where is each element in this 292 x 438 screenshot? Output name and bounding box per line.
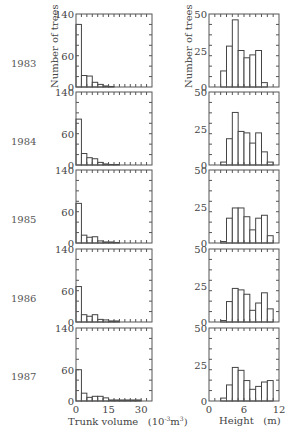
y-tick-label: 25 [194, 46, 207, 57]
histogram-bar [227, 139, 233, 165]
x-tick-label: 0 [73, 404, 79, 415]
histogram-bar [92, 82, 97, 87]
right-x-axis-unit: (m) [263, 415, 280, 426]
y-tick-label: 50 [194, 9, 207, 20]
y-tick-label: 140 [55, 244, 74, 255]
histogram-bar [92, 237, 97, 243]
histogram-bar [244, 133, 250, 165]
histogram-bar [267, 236, 273, 243]
histogram-bar [87, 237, 92, 243]
histogram-bar [250, 389, 256, 401]
y-tick-label: 60 [61, 207, 74, 218]
histogram-bar [250, 310, 256, 322]
y-tick-label: 50 [194, 87, 207, 98]
plot-frame [76, 92, 152, 165]
histogram-bar [256, 218, 262, 243]
histogram-bar [238, 131, 244, 165]
histogram-bar [87, 158, 92, 165]
histogram-bar [81, 315, 86, 322]
y-tick-label: 25 [194, 124, 207, 135]
histogram-bar [81, 235, 86, 243]
histogram-bar [227, 46, 233, 87]
y-tick-label: 60 [61, 129, 74, 140]
histogram-bar [76, 287, 81, 322]
plot-frame [76, 328, 152, 401]
y-tick-label: 50 [194, 323, 207, 334]
histogram-bar [262, 215, 268, 243]
histogram-bar [92, 159, 97, 165]
histogram-bar [87, 316, 92, 322]
histogram-bar [256, 386, 262, 401]
y-tick-label: 60 [61, 51, 74, 62]
histogram-bar [87, 76, 92, 87]
histogram-bar [87, 397, 92, 401]
histogram-bar [81, 76, 86, 87]
y-tick-label: 25 [194, 202, 207, 213]
histogram-bar [76, 370, 81, 401]
histogram-bar [232, 288, 238, 322]
y-tick-label: 140 [55, 9, 74, 20]
histogram-bar [267, 381, 273, 401]
histogram-bar [250, 55, 256, 87]
histogram-bar [250, 230, 256, 243]
left-x-axis-unit: (10-3m3) [148, 416, 188, 427]
histogram-bar [81, 393, 86, 401]
y-tick-label: 140 [55, 165, 74, 176]
left-x-axis-label: Trunk volume (10-3m3) [68, 415, 188, 427]
histogram-bar [92, 396, 97, 401]
histogram-bar [262, 293, 268, 322]
right-x-axis-label: Height (m) [219, 415, 281, 426]
histogram-bar [256, 51, 262, 88]
y-tick-label: 50 [194, 165, 207, 176]
histogram-bar [92, 315, 97, 322]
histogram-bar [232, 367, 238, 401]
histogram-bar [98, 396, 103, 401]
plot-frame [76, 170, 152, 243]
histogram-bar [221, 71, 227, 87]
histogram-bar [256, 133, 262, 165]
histogram-bar [256, 303, 262, 322]
histogram-bar [232, 112, 238, 165]
y-tick-label: 25 [194, 281, 207, 292]
histogram-bar [244, 381, 250, 401]
plot-frame [76, 249, 152, 322]
histogram-bar [232, 208, 238, 243]
x-tick-label: 30 [135, 404, 148, 415]
x-tick-label: 15 [102, 404, 115, 415]
y-tick-label: 60 [61, 286, 74, 297]
x-tick-label: 6 [241, 404, 247, 415]
histogram-bar [227, 302, 233, 322]
histogram-bar [238, 208, 244, 243]
right-x-axis-label-main: Height [219, 415, 254, 426]
histogram-bar [227, 385, 233, 401]
y-tick-label: 60 [61, 365, 74, 376]
histogram-bar [267, 309, 273, 322]
histogram-bar [238, 370, 244, 401]
histogram-bar [227, 218, 233, 243]
histogram-bar [81, 154, 86, 165]
y-tick-label: 140 [55, 87, 74, 98]
histogram-bar [262, 382, 268, 401]
histogram-bar [76, 119, 81, 165]
histogram-bar [238, 51, 244, 88]
histogram-bar [244, 294, 250, 322]
histogram-bar [250, 143, 256, 165]
histogram-bar [76, 203, 81, 243]
y-tick-label: 50 [194, 244, 207, 255]
x-tick-label: 12 [273, 404, 286, 415]
y-tick-label: 140 [55, 323, 74, 334]
histogram-bar [244, 58, 250, 87]
histogram-bar [262, 152, 268, 165]
x-tick-label: 0 [206, 404, 212, 415]
histogram-bar [232, 20, 238, 87]
histogram-grid: 0601400601400601400601400601400153002550… [0, 0, 292, 438]
histogram-bar [238, 290, 244, 322]
left-x-axis-label-main: Trunk volume [68, 416, 138, 427]
histogram-bar [244, 217, 250, 243]
histogram-bar [262, 83, 268, 87]
y-tick-label: 25 [194, 360, 207, 371]
